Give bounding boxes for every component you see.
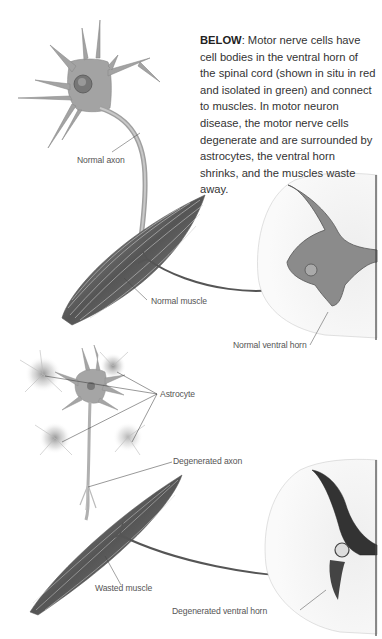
normal-spinal-cord [257,173,377,340]
label-normal-axon: Normal axon [77,155,125,165]
label-wasted-muscle: Wasted muscle [95,583,152,593]
label-degenerated-ventral-horn: Degenerated ventral horn [172,606,267,616]
astrocytes [20,350,145,455]
label-normal-ventral-horn: Normal ventral horn [233,340,307,350]
label-normal-muscle: Normal muscle [151,296,207,306]
caption: BELOW: Motor nerve cells have cell bodie… [200,32,376,198]
label-astrocyte: Astrocyte [160,389,195,399]
degenerated-spinal-cord [265,459,377,636]
caption-text: : Motor nerve cells have cell bodies in … [200,34,375,195]
caption-lead: BELOW [200,34,242,46]
wasted-muscle [30,475,182,615]
motor-neuron-diagram: BELOW: Motor nerve cells have cell bodie… [0,0,382,639]
label-degenerated-axon: Degenerated axon [173,456,242,466]
